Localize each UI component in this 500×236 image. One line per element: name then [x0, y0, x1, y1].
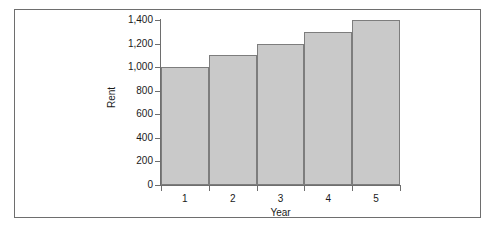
x-axis-line — [160, 185, 401, 186]
x-tick-1 — [209, 186, 210, 191]
x-tick-0 — [161, 186, 162, 191]
bar-year-3 — [257, 44, 305, 185]
x-tick-label-2: 2 — [209, 193, 257, 204]
y-tick-label-0: 0 — [107, 180, 153, 190]
x-tick-5 — [400, 186, 401, 191]
chart-page: 0 200 400 600 800 1,000 1,200 1,400 — [0, 0, 500, 236]
y-tick-label-200-wrap: 200 — [101, 156, 153, 166]
bar-year-5 — [352, 20, 400, 185]
x-tick-label-1: 1 — [161, 193, 209, 204]
y-tick-label-1400: 1,400 — [107, 15, 153, 25]
y-tick-label-1200-wrap: 1,200 — [101, 39, 153, 49]
x-tick-label-5: 5 — [352, 193, 400, 204]
x-tick-2 — [257, 186, 258, 191]
y-tick-label-400-wrap: 400 — [101, 133, 153, 143]
x-tick-4 — [352, 186, 353, 191]
bar-year-2 — [209, 55, 257, 185]
y-tick-label-0-wrap: 0 — [101, 180, 153, 190]
bar-year-4 — [304, 32, 352, 185]
y-tick-label-1400-wrap: 1,400 — [101, 15, 153, 25]
x-tick-label-3: 3 — [257, 193, 305, 204]
bar-chart: 0 200 400 600 800 1,000 1,200 1,400 — [0, 0, 500, 236]
x-tick-label-4: 4 — [304, 193, 352, 204]
y-tick-label-1200: 1,200 — [107, 39, 153, 49]
y-axis-title: Rent — [106, 83, 117, 113]
x-tick-3 — [304, 186, 305, 191]
bar-year-1 — [161, 67, 209, 185]
y-tick-label-200: 200 — [107, 156, 153, 166]
y-tick-label-1000-wrap: 1,000 — [101, 62, 153, 72]
y-tick-label-400: 400 — [107, 133, 153, 143]
x-axis-title: Year — [161, 207, 400, 218]
y-tick-label-1000: 1,000 — [107, 62, 153, 72]
plot-area — [161, 20, 400, 185]
